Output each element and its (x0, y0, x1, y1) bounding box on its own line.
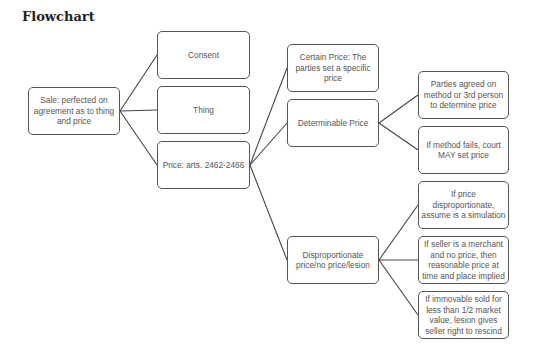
node-sale: Sale: perfected on agreement as to thing… (28, 87, 120, 135)
node-consent: Consent (157, 31, 250, 79)
node-merchant: If seller is a merchant and no price, th… (418, 236, 509, 284)
node-certain-price: Certain Price: The parties set a specifi… (287, 44, 379, 92)
node-disproportionate: Disproportionate price/no price/lesion (287, 236, 379, 284)
node-method-fails: If method fails, court MAY set price (418, 126, 509, 174)
node-determinable-price: Determinable Price (287, 99, 379, 147)
node-simulation: If price disproportionate, assume is a s… (418, 181, 509, 229)
node-lesion: If immovable sold for less than 1/2 mark… (418, 291, 509, 339)
node-price: Price: arts. 2462-2466 (157, 141, 250, 189)
node-thing: Thing (157, 86, 250, 134)
node-method-agreed: Parties agreed on method or 3rd person t… (418, 71, 509, 119)
